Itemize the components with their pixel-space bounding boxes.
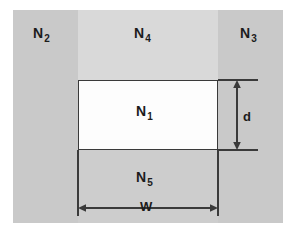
label-n1-base: N	[136, 103, 146, 119]
label-n4-base: N	[134, 25, 144, 41]
label-n4: N4	[134, 26, 150, 40]
label-n4-subscript: 4	[145, 33, 151, 44]
label-n2: N2	[33, 26, 49, 40]
label-n5-base: N	[136, 169, 146, 185]
label-n3: N3	[240, 26, 256, 40]
label-n2-base: N	[33, 25, 43, 41]
label-n5-subscript: 5	[147, 177, 153, 188]
label-n1: N1	[136, 104, 152, 118]
label-n5: N5	[136, 170, 152, 184]
label-n1-subscript: 1	[147, 111, 153, 122]
refractive-index-cross-section-figure: N2 N4 N3 N1 N5 d W	[0, 0, 297, 232]
dimension-label-w: W	[140, 200, 152, 213]
label-n2-subscript: 2	[44, 33, 50, 44]
label-n3-base: N	[240, 25, 250, 41]
dimension-label-d: d	[243, 110, 251, 123]
label-n3-subscript: 3	[251, 33, 257, 44]
